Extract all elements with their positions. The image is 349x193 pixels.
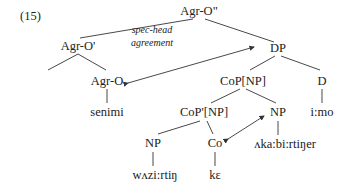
node-np-right: NP (270, 106, 286, 119)
leaf-imo: i:mo (311, 106, 334, 119)
leaf-wazirtin: wʌzi:rtiŋ (132, 169, 177, 182)
node-co: Co (208, 137, 223, 150)
node-cop-bar-np: CoP'[NP] (180, 106, 228, 119)
annotation-line-2: agreement (131, 37, 173, 50)
leaf-senimi: senimi (90, 106, 123, 119)
node-cop-np: CoP[NP] (220, 75, 266, 88)
node-agr-o-double-bar: Agr-O" (180, 5, 217, 18)
node-dp: DP (270, 42, 286, 55)
node-d: D (317, 75, 326, 88)
node-np-left: NP (145, 137, 161, 150)
leaf-akabirtiner: ʌka:bi:rtiŋer (254, 138, 316, 151)
spec-head-agreement-label: spec-head agreement (131, 24, 173, 49)
leaf-ke: kɛ (209, 169, 221, 182)
tree-edges (0, 0, 349, 193)
node-agr-o: Agr-O (91, 75, 123, 88)
annotation-line-1: spec-head (131, 24, 173, 37)
node-agr-o-bar: Agr-O' (61, 40, 96, 53)
example-number: (15) (20, 10, 41, 23)
